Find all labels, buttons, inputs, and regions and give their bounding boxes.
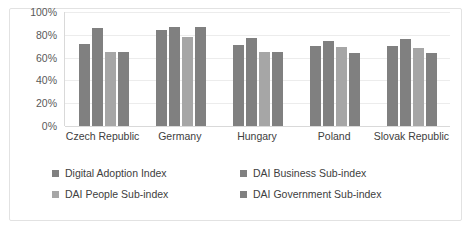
legend-item[interactable]: DAI Business Sub-index <box>240 168 418 180</box>
chart-figure: 100%80%60%40%20%0% Czech RepublicGermany… <box>0 0 471 231</box>
legend-label: DAI Government Sub-index <box>253 189 381 201</box>
x-axis: Czech RepublicGermanyHungaryPolandSlovak… <box>64 128 450 144</box>
plot-area <box>64 12 450 126</box>
legend-item[interactable]: DAI Government Sub-index <box>240 189 418 201</box>
bar-group <box>296 12 373 126</box>
bar <box>246 38 257 126</box>
bar <box>233 45 244 126</box>
legend-swatch-icon <box>52 191 59 198</box>
bar <box>413 48 424 126</box>
bar <box>336 47 347 126</box>
legend-swatch-icon <box>52 170 59 177</box>
bar-group <box>65 12 142 126</box>
legend-item[interactable]: DAI People Sub-index <box>52 189 230 201</box>
bar <box>272 52 283 126</box>
bar <box>92 28 103 126</box>
bar <box>182 37 193 126</box>
bar-group <box>142 12 219 126</box>
y-tick-label: 40% <box>36 75 57 86</box>
legend-swatch-icon <box>240 191 247 198</box>
bar-group <box>373 12 450 126</box>
x-tick-label: Germany <box>141 128 218 144</box>
y-axis: 100%80%60%40%20%0% <box>20 12 60 126</box>
legend-label: DAI People Sub-index <box>65 189 168 201</box>
bar <box>323 41 334 127</box>
y-tick-label: 100% <box>30 7 57 18</box>
bar-group <box>219 12 296 126</box>
y-tick-label: 20% <box>36 98 57 109</box>
x-tick-label: Czech Republic <box>64 128 141 144</box>
y-tick-label: 60% <box>36 52 57 63</box>
plot-region: 100%80%60%40%20%0% Czech RepublicGermany… <box>20 12 452 144</box>
bar <box>105 52 116 126</box>
bar <box>259 52 270 126</box>
chart-legend: Digital Adoption IndexDAI Business Sub-i… <box>52 168 418 200</box>
bar <box>169 27 180 126</box>
y-tick-label: 0% <box>42 121 57 132</box>
bar <box>426 53 437 126</box>
bar <box>195 27 206 126</box>
bar <box>400 39 411 126</box>
bar-groups <box>65 12 450 126</box>
legend-label: Digital Adoption Index <box>65 168 167 180</box>
axis-baseline <box>65 126 450 127</box>
x-tick-label: Hungary <box>218 128 295 144</box>
bar <box>156 30 167 126</box>
legend-swatch-icon <box>240 170 247 177</box>
bar <box>349 53 360 126</box>
x-tick-label: Poland <box>296 128 373 144</box>
legend-label: DAI Business Sub-index <box>253 168 366 180</box>
x-tick-label: Slovak Republic <box>373 128 450 144</box>
bar <box>387 46 398 126</box>
bar <box>310 46 321 126</box>
legend-item[interactable]: Digital Adoption Index <box>52 168 230 180</box>
bar <box>118 52 129 126</box>
y-tick-label: 80% <box>36 30 57 41</box>
bar <box>79 44 90 126</box>
